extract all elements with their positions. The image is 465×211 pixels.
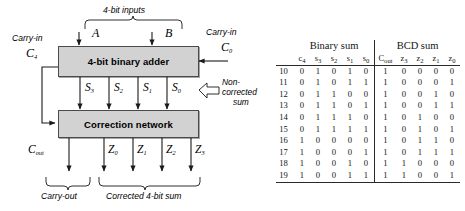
row-index: 15: [276, 124, 294, 136]
binary-sum-cell: 1: [358, 170, 375, 182]
bcd-sum-cell: 1: [444, 147, 460, 159]
noncorrected-sum-pointer: [199, 83, 219, 98]
binary-sum-cell: 0: [294, 112, 310, 124]
cout-sym: C: [28, 143, 36, 155]
bcd-sum-cell: 1: [375, 170, 397, 182]
column-header-s1: s1: [342, 53, 358, 66]
column-header-c4: c4: [294, 53, 310, 66]
z3-subscript: 3: [201, 149, 204, 156]
bcd-sum-cell: 1: [444, 124, 460, 136]
bcd-sum-cell: 0: [428, 124, 444, 136]
row-index: 10: [276, 65, 294, 77]
group-header-spacer: [276, 40, 294, 53]
bcd-sum-cell: 1: [375, 65, 397, 77]
sum-bit-s3-label: S3: [85, 82, 94, 94]
corrected-sum-brace-label: Corrected 4-bit sum: [106, 192, 181, 201]
binary-sum-cell: 1: [358, 124, 375, 136]
binary-sum-cell: 0: [358, 158, 375, 170]
binary-sum-cell: 1: [294, 158, 310, 170]
bcd-sum-cell: 0: [412, 100, 428, 112]
row-index: 19: [276, 170, 294, 182]
binary-sum-cell: 0: [342, 147, 358, 159]
c4-subscript: 4: [34, 53, 37, 60]
s3-subscript: 3: [91, 87, 94, 94]
bcd-sum-cell: 1: [375, 158, 397, 170]
binary-sum-cell: 1: [294, 170, 310, 182]
bcd-correction-truth-table: Binary sum BCD sum c4 s3 s2 s1 s0 Cout z…: [276, 40, 460, 184]
binary-sum-cell: 0: [326, 158, 342, 170]
binary-sum-cell: 1: [342, 65, 358, 77]
bcd-sum-cell: 1: [444, 77, 460, 89]
binary-sum-cell: 0: [310, 158, 326, 170]
bcd-sum-cell: 1: [375, 124, 397, 136]
binary-sum-cell: 1: [358, 100, 375, 112]
binary-sum-cell: 1: [326, 89, 342, 101]
z1-head-sub: 1: [436, 57, 439, 64]
bcd-sum-cell: 1: [396, 158, 412, 170]
table-bottom-rule: [276, 182, 460, 184]
c4-sym: C: [26, 46, 34, 60]
table-row: 100101010000: [276, 65, 460, 77]
z2-head-sub: 2: [420, 57, 423, 64]
four-bit-binary-adder-block[interactable]: 4-bit binary adder: [58, 46, 199, 77]
bcd-sum-cell: 0: [396, 112, 412, 124]
correction-block-label: Correction network: [84, 119, 173, 130]
bcd-sum-cell: 1: [412, 124, 428, 136]
inputs-brace-label: 4-bit inputs: [103, 6, 145, 15]
bcd-sum-cell: 0: [444, 65, 460, 77]
binary-sum-cell: 1: [342, 77, 358, 89]
bcd-sum-cell: 0: [396, 135, 412, 147]
column-header-z3: z3: [396, 53, 412, 66]
binary-sum-cell: 0: [358, 112, 375, 124]
s3-head-sub: 3: [318, 57, 321, 64]
binary-sum-cell: 1: [342, 170, 358, 182]
row-index: 13: [276, 100, 294, 112]
cout-subscript: out: [36, 149, 44, 156]
bcd-sum-cell: 1: [428, 89, 444, 101]
table-row: 191001111001: [276, 170, 460, 182]
carry-out-brace-label: Carry-out: [41, 192, 77, 201]
binary-sum-cell: 1: [310, 65, 326, 77]
column-header-cout: Cout: [375, 53, 397, 66]
column-header-s2: s2: [326, 53, 342, 66]
bcd-sum-cell: 0: [396, 124, 412, 136]
binary-sum-cell: 0: [342, 100, 358, 112]
row-index: 11: [276, 77, 294, 89]
table-row: 130110110011: [276, 100, 460, 112]
carry-in-c4-symbol: C4: [26, 47, 37, 59]
table-row: 161000010110: [276, 135, 460, 147]
bcd-sum-cell: 0: [428, 77, 444, 89]
correction-network-block[interactable]: Correction network: [58, 110, 199, 138]
bcd-sum-cell: 0: [412, 158, 428, 170]
bcd-sum-cell: 0: [444, 158, 460, 170]
binary-sum-cell: 0: [342, 89, 358, 101]
binary-sum-cell: 1: [310, 124, 326, 136]
bcd-sum-cell: 1: [375, 77, 397, 89]
carry-in-c0-symbol: C0: [221, 41, 232, 53]
z1-subscript: 1: [143, 149, 146, 156]
bcd-sum-cell: 0: [396, 89, 412, 101]
bcd-sum-cell: 1: [444, 170, 460, 182]
bcd-sum-cell: 0: [428, 112, 444, 124]
bcd-sum-cell: 0: [412, 77, 428, 89]
binary-sum-cell: 0: [326, 147, 342, 159]
s2-subscript: 2: [120, 87, 123, 94]
binary-sum-cell: 0: [294, 65, 310, 77]
binary-sum-cell: 0: [310, 170, 326, 182]
sum-bit-s0-label: S0: [172, 82, 181, 94]
bcd-sum-cell: 0: [396, 100, 412, 112]
output-z2-label: Z2: [166, 144, 176, 156]
carry-in-c4-label: Carry-in: [12, 34, 43, 43]
bcd-sum-cell: 1: [444, 100, 460, 112]
table-row: 181001011000: [276, 158, 460, 170]
noncorrected-sum-label-line3: sum: [233, 98, 249, 106]
corrected-sum-brace: [99, 177, 200, 190]
z3-head-sub: 3: [404, 57, 407, 64]
binary-sum-cell: 0: [326, 135, 342, 147]
binary-sum-cell: 0: [326, 170, 342, 182]
bcd-sum-cell: 1: [412, 147, 428, 159]
binary-sum-cell: 1: [310, 89, 326, 101]
column-header-z1: z1: [428, 53, 444, 66]
c4-head-sub: 4: [302, 57, 305, 64]
column-header-z2: z2: [412, 53, 428, 66]
